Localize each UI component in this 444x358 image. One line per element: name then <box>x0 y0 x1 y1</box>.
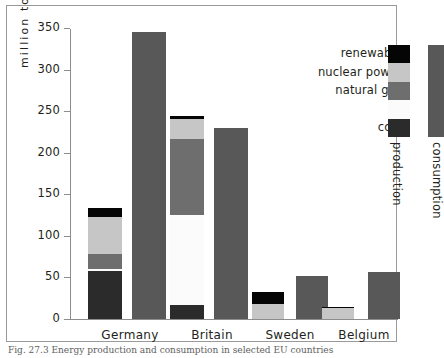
y-tick-250 <box>64 111 70 112</box>
y-tick-50 <box>64 277 70 278</box>
bar-group-germany: Germany <box>88 28 172 319</box>
legend-swatch-renewable <box>388 45 410 63</box>
consumption-bar-germany <box>132 32 166 319</box>
legend-production-swatch <box>388 45 410 137</box>
segment-oil-britain <box>170 215 204 305</box>
segment-natural-gas-germany <box>88 254 122 269</box>
legend-swatch-coal <box>388 119 410 137</box>
x-tick-label-britain: Britain <box>170 328 254 342</box>
figure-frame: 050100150200250300350 million tonnes oil… <box>6 5 397 342</box>
y-tick-label-250: 250 <box>28 103 60 117</box>
y-axis-line <box>70 29 71 320</box>
y-tick-200 <box>64 153 70 154</box>
plot-area: 050100150200250300350 million tonnes oil… <box>70 24 400 324</box>
legend-item-nuclear-power: nuclear power <box>292 63 402 82</box>
legend-swatch-oil <box>388 100 410 118</box>
y-tick-label-300: 300 <box>28 62 60 76</box>
legend-consumption-swatch <box>428 45 444 137</box>
segment-coal-britain <box>170 305 204 319</box>
bar-group-britain: Britain <box>170 28 254 319</box>
legend-item-coal: coal <box>292 118 402 137</box>
x-tick-label-belgium: Belgium <box>322 328 406 342</box>
legend-item-natural-gas: natural gas <box>292 81 402 100</box>
production-bar-belgium <box>322 307 354 319</box>
x-axis-line <box>70 319 398 320</box>
y-tick-label-50: 50 <box>28 269 60 283</box>
figure-caption: Fig. 27.3 Energy production and consumpt… <box>8 345 404 355</box>
legend-swatch-natural-gas <box>388 82 410 100</box>
legend-production-label: production <box>390 142 404 206</box>
y-tick-label-200: 200 <box>28 145 60 159</box>
segment-renewable-sweden <box>252 292 284 304</box>
segment-nuclear-power-britain <box>170 119 204 139</box>
legend-consumption-label: consumption <box>430 142 444 219</box>
y-tick-label-350: 350 <box>28 20 60 34</box>
segment-nuclear-power-sweden <box>252 304 284 319</box>
y-tick-label-150: 150 <box>28 186 60 200</box>
y-tick-350 <box>64 28 70 29</box>
segment-renewable-britain <box>170 116 204 118</box>
segment-nuclear-power-germany <box>88 217 122 254</box>
legend-swatch-nuclear-power <box>388 63 410 81</box>
segment-renewable-belgium <box>322 307 354 308</box>
production-bar-sweden <box>252 292 284 319</box>
legend-item-oil: oil <box>292 100 402 119</box>
segment-nuclear-power-belgium <box>322 308 354 319</box>
production-bar-britain <box>170 116 204 319</box>
x-tick-label-sweden: Sweden <box>252 328 328 342</box>
legend-item-renewable: renewable <box>292 44 402 63</box>
segment-renewable-germany <box>88 208 122 216</box>
production-bar-germany <box>88 208 122 319</box>
x-tick-label-germany: Germany <box>88 328 172 342</box>
legend: renewablenuclear powernatural gasoilcoal <box>292 44 402 137</box>
y-tick-label-0: 0 <box>28 311 60 325</box>
segment-natural-gas-britain <box>170 139 204 215</box>
y-axis-title: million tonnes oil equivalent <box>18 0 31 68</box>
segment-coal-germany <box>88 271 122 319</box>
y-tick-0 <box>64 319 70 320</box>
y-tick-300 <box>64 70 70 71</box>
y-tick-150 <box>64 194 70 195</box>
consumption-bar-britain <box>214 128 248 319</box>
y-tick-label-100: 100 <box>28 228 60 242</box>
y-tick-100 <box>64 236 70 237</box>
segment-oil-germany <box>88 269 122 271</box>
consumption-bar-belgium <box>368 272 400 319</box>
